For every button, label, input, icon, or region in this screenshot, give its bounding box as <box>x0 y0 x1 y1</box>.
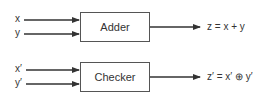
checker-label: Checker <box>95 71 136 83</box>
adder-label: Adder <box>100 21 129 33</box>
adder-input-y-label: y <box>15 28 20 38</box>
checker-output-label: z′ = x′ ⊕ y′ <box>207 72 253 82</box>
checker-input-y-prime-label: y′ <box>15 78 22 88</box>
adder-input-x-label: x <box>15 14 20 24</box>
adder-output-label: z = x + y <box>207 22 245 32</box>
checker-input-x-prime-label: x′ <box>15 64 22 74</box>
adder-box: Adder <box>80 12 150 42</box>
checker-box: Checker <box>80 62 150 92</box>
